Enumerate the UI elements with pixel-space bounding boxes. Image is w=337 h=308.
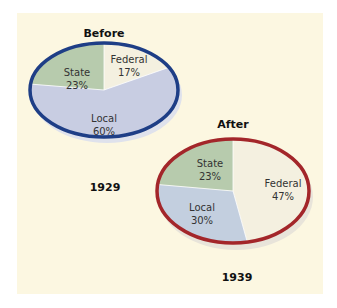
pie-charts: Before Federal 17% State 23% Local 60% 1… [0,0,337,308]
label-after-local-name: Local [189,202,215,213]
label-after-state-name: State [197,158,223,169]
label-after-federal-name: Federal [265,178,302,189]
label-before-state-value: 23% [66,80,88,91]
label-before-federal-name: Federal [111,54,148,65]
pie-before-caption: 1929 [90,181,121,194]
label-before-local-name: Local [91,113,117,124]
pie-after: After State 23% Federal 47% Local 30% 19… [157,118,313,284]
pie-after-caption: 1939 [222,271,253,284]
pie-after-title: After [217,118,249,131]
label-before-federal-value: 17% [118,67,140,78]
pie-before-title: Before [83,27,124,40]
label-after-state-value: 23% [199,171,221,182]
label-before-local-value: 60% [93,126,115,137]
label-before-state-name: State [64,67,90,78]
pie-before: Before Federal 17% State 23% Local 60% 1… [30,27,182,194]
label-after-local-value: 30% [191,215,213,226]
label-after-federal-value: 47% [272,191,294,202]
